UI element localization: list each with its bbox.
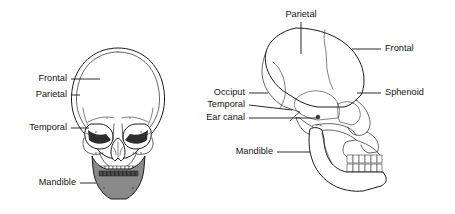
anterior-mental-foramen-left (103, 187, 105, 189)
label-lateral-parietal: Parietal (285, 9, 316, 19)
anterior-speck-c (95, 152, 97, 154)
anterior-speck-b (140, 131, 142, 133)
label-anterior-temporal: Temporal (29, 122, 67, 132)
label-lateral-temporal: Temporal (207, 99, 245, 109)
anterior-mental-foramen-right (132, 187, 134, 189)
label-anterior-frontal: Frontal (38, 73, 67, 83)
anterior-speck-a (95, 131, 97, 133)
label-anterior-mandible: Mandible (39, 177, 76, 187)
label-lateral-occiput: Occiput (214, 87, 246, 97)
lateral-lower-teeth (347, 164, 382, 172)
label-lateral-sphenoid: Sphenoid (385, 87, 424, 97)
anterior-lower-teeth (99, 171, 138, 176)
label-lateral-frontal: Frontal (385, 43, 414, 53)
anterior-speck-f (129, 117, 130, 118)
skull-anatomy-figure: Frontal Parietal Temporal Mandible (0, 0, 455, 214)
label-anterior-parietal: Parietal (36, 89, 67, 99)
skull-diagram-canvas: Frontal Parietal Temporal Mandible (0, 0, 455, 214)
anterior-speck-d (140, 152, 142, 154)
label-lateral-ear-canal: Ear canal (206, 112, 245, 122)
label-lateral-mandible: Mandible (236, 146, 273, 156)
anterior-speck-e (106, 117, 107, 118)
lateral-upper-teeth (347, 155, 382, 163)
